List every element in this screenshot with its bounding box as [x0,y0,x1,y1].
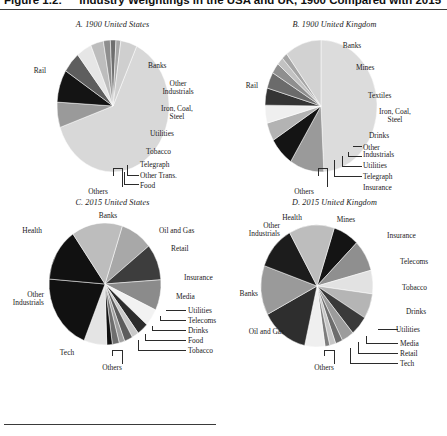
panel-c-leader-tobacco-v [138,340,139,350]
panel-d-leader-media-v [366,336,367,343]
footer-rule [4,424,216,425]
panel-b-leader-telegraph-h [342,166,362,167]
panel-a-leader-others [122,168,123,187]
panel-c-label-oil-and-gas: Oil and Gas [159,227,194,235]
header-rule [0,9,447,10]
panel-b-label-iron-line2: Steel [366,116,424,124]
panel-d-label-media: Media [400,340,419,348]
panel-a-label-tobacco: Tobacco [146,148,171,156]
panel-c-leader-others [122,350,123,364]
panel-a-leader-tick-2 [113,172,114,175]
panel-d-label-insurance: Insurance [387,232,416,240]
panel-d-label-retail: Retail [400,350,418,358]
panel-d-leader-media-h [366,343,398,344]
panel-d: D. 2015 United Kingdom Health Mines Insu… [222,198,447,428]
panel-b-label-telegraph: Telegraph [363,173,392,181]
panel-c-leader-drinks-h [152,330,186,331]
panel-c-pie [48,222,162,346]
panel-a-label-telegraph: Telegraph [140,161,169,169]
panel-a-title: A. 1900 United States [0,20,225,29]
panel-c-leader-bracket [112,350,122,351]
panel-c-leader-utilities-h [166,310,186,311]
panel-c-label-others: Others [92,364,132,372]
panel-b-label-textiles: Textiles [368,92,391,100]
panel-d-label-banks: Banks [222,290,258,298]
panel-b-label-others: Others [284,188,324,196]
panel-a-leader-bracket [113,168,122,169]
panel-d-label-oil-and-gas: Oil and Gas [222,328,284,336]
panel-d-leader-bracket [324,350,334,351]
panel-c-label-insurance: Insurance [184,274,213,282]
panel-a-leader-food-v [124,172,125,184]
panel-c-label-tech: Tech [50,349,84,357]
panel-d-leader-retail-h [358,353,398,354]
panel-c-label-other-industrials-line2: Industrials [0,299,44,307]
panel-c-leader-food-h [145,340,186,341]
panel-b-leader-tick-1 [318,168,319,176]
panel-d-title: D. 2015 United Kingdom [222,198,447,207]
panel-b-label-banks: Banks [332,42,372,50]
panel-d-leader-others [334,350,335,364]
panel-b-leader-telegraph-v [342,156,343,166]
panel-d-label-others: Others [304,364,344,372]
panel-b-leader-utilities-h [348,156,362,157]
panel-a-leader-other-trans-h [127,175,139,176]
panel-b-leader-bracket [318,168,327,169]
panel-b-leader-other-industrials-h [353,146,362,147]
panel-a-label-other-trans: Other Trans. [140,172,177,180]
panel-c-pie-svg [48,222,162,346]
panel-b-label-utilities: Utilities [363,162,387,170]
panel-b: B. 1900 United Kingdom Rail Banks Mines … [222,20,447,198]
panel-d-leader-tick-1 [324,350,325,356]
panel-c-label-tobacco: Tobacco [188,347,213,355]
panel-c-leader-tobacco-h [138,350,186,351]
panel-d-label-mines: Mines [326,216,366,224]
panel-b-title: B. 1900 United Kingdom [222,20,447,29]
panel-b-label-drinks: Drinks [369,132,389,140]
panel-c-label-telecoms: Telecoms [188,317,216,325]
panel-a-label-rail: Rail [0,67,46,75]
panel-c-leader-tick-1 [112,350,113,356]
panel-d-leader-tech-h [350,363,398,364]
panel-c-label-drinks: Drinks [188,327,208,335]
panel-a: A. 1900 United States Rail Banks Other I… [0,20,225,198]
panel-d-label-drinks: Drinks [406,308,426,316]
panel-a-leader-other-trans-v [127,165,128,175]
panel-c-title: C. 2015 United States [0,198,225,207]
panel-d-label-telecoms: Telecoms [400,258,428,266]
panel-a-label-food: Food [140,182,155,190]
panel-a-leader-food-h [124,184,139,185]
panel-a-label-utilities: Utilities [150,130,174,138]
panel-b-leader-others [327,168,328,187]
panel-d-leader-utilities-h [378,329,398,330]
figure-number: Figure 1.2: [4,0,62,6]
panel-b-leader-insurance-v [334,160,335,176]
panel-c-label-retail: Retail [171,245,189,253]
panel-d-label-tech: Tech [400,360,414,368]
panel-a-label-others: Others [78,188,118,196]
panel-b-label-mines: Mines [356,64,374,72]
panel-b-label-rail: Rail [222,82,258,90]
panel-d-leader-retail-v [358,342,359,353]
panel-d-leader-tech-v [350,348,351,363]
panel-d-label-tobacco: Tobacco [402,284,427,292]
panel-c-label-media: Media [176,293,195,301]
panel-a-label-iron-line2: Steel [148,113,206,121]
panel-b-leader-insurance-h [334,176,362,177]
panel-c: C. 2015 United States Banks Health Oil a… [0,198,225,428]
panel-c-label-food: Food [188,337,203,345]
panel-c-label-banks: Banks [88,212,128,220]
panel-a-label-other-industrials-line2: Industrials [151,88,205,96]
panel-d-label-utilities: Utilities [396,326,420,334]
panel-c-label-utilities: Utilities [188,307,212,315]
panel-c-label-health: Health [4,227,42,235]
panel-a-label-banks: Banks [148,62,166,70]
panel-d-label-other-industrials-line2: Industrials [222,230,280,238]
panel-c-leader-telecoms-h [160,320,186,321]
figure-title-bar: Figure 1.2: Industry Weightings in the U… [0,0,447,8]
panel-b-label-insurance: Insurance [363,184,392,192]
figure-title-text: Industry Weightings in the USA and UK, 1… [79,0,441,6]
panel-b-label-other-industrials-line2: Industrials [363,151,394,159]
